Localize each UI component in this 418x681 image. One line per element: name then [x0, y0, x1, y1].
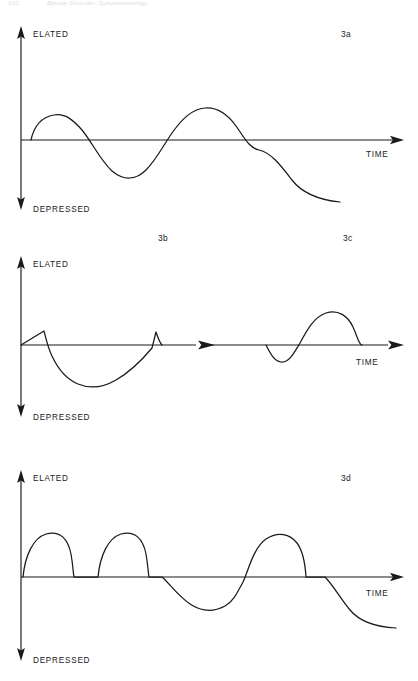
- x-axis-arrow-icon: [388, 340, 404, 349]
- running-head-folio: 120: [8, 0, 19, 6]
- panel-3a-time-label: TIME: [366, 150, 389, 159]
- figure-root: 120 Bipolar Disorder: Symptomatology ELA…: [0, 0, 418, 681]
- panel-3d-tag: 3d: [341, 473, 351, 483]
- running-head: 120 Bipolar Disorder: Symptomatology: [8, 0, 410, 10]
- panel-3a-y-axis: [17, 26, 25, 210]
- panel-3c-tag: 3c: [343, 233, 352, 243]
- panel-3c-mood-curve: [266, 312, 362, 362]
- panel-3bc-x-axis: [21, 340, 404, 349]
- panel-3bc: 3b 3c ELATED DEPRESSED TIME: [0, 232, 418, 444]
- panel-3a-elated-label: ELATED: [33, 30, 69, 39]
- panel-3a-x-axis: [21, 136, 404, 144]
- panel-3bc-elated-label: ELATED: [33, 260, 69, 269]
- panel-3b-mood-curve: [21, 331, 162, 387]
- panel-3d-depressed-label: DEPRESSED: [33, 656, 90, 665]
- panel-3a-tag: 3a: [341, 29, 351, 39]
- panel-3a: ELATED DEPRESSED TIME 3a: [0, 20, 418, 225]
- panel-3a-depressed-label: DEPRESSED: [33, 205, 90, 214]
- panel-3d-mood-curve: [23, 533, 396, 628]
- panel-3d-elated-label: ELATED: [33, 474, 69, 483]
- running-head-title: Bipolar Disorder: Symptomatology: [47, 0, 148, 6]
- panel-3d-time-label: TIME: [366, 589, 389, 598]
- panel-3bc-depressed-label: DEPRESSED: [33, 413, 90, 422]
- panel-3d: ELATED DEPRESSED TIME 3d: [0, 455, 418, 681]
- panel-3a-mood-curve: [31, 108, 340, 202]
- panel-3d-y-axis: [17, 470, 25, 661]
- panel-3bc-y-axis: [17, 256, 25, 417]
- panel-3b-tag: 3b: [158, 233, 168, 243]
- panel-3bc-time-label: TIME: [356, 358, 379, 367]
